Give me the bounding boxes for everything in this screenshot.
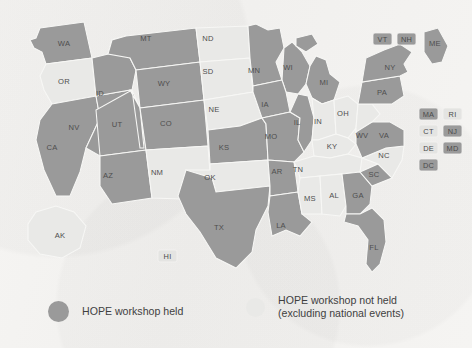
box-label-NJ: NJ: [448, 127, 458, 136]
label-TN: TN: [293, 165, 304, 174]
state-CO[interactable]: [140, 100, 208, 150]
box-label-RI: RI: [449, 110, 457, 119]
legend-label-not-held-line2: (excluding national events): [278, 307, 404, 319]
label-MO: MO: [265, 132, 278, 141]
label-PA: PA: [377, 88, 388, 97]
label-CA: CA: [47, 143, 59, 152]
label-OR: OR: [58, 77, 70, 86]
state-MN[interactable]: [248, 24, 284, 86]
legend-item-not-held[interactable]: HOPE workshop not held (excluding nation…: [246, 294, 404, 321]
legend-item-held[interactable]: HOPE workshop held: [48, 301, 183, 322]
map-legend: HOPE workshop held HOPE workshop not hel…: [0, 292, 472, 348]
label-ID: ID: [96, 89, 104, 98]
label-NY: NY: [385, 63, 396, 72]
box-DC[interactable]: DC: [419, 159, 438, 171]
map-svg: WA OR CA NV ID MT WY UT AZ CO NM ND SD N…: [0, 0, 472, 292]
box-label-VT: VT: [378, 35, 388, 44]
box-label-MA: MA: [423, 110, 435, 119]
box-label-MD: MD: [447, 144, 459, 153]
label-CO: CO: [160, 119, 172, 128]
label-OK: OK: [204, 173, 215, 182]
map-states: [28, 22, 448, 272]
label-WV: WV: [356, 131, 369, 140]
us-choropleth-map: WA OR CA NV ID MT WY UT AZ CO NM ND SD N…: [0, 0, 472, 292]
box-HI[interactable]: HI: [158, 250, 177, 262]
label-NM: NM: [151, 168, 163, 177]
label-TX: TX: [214, 223, 224, 232]
box-CT[interactable]: CT: [419, 125, 438, 137]
label-KS: KS: [219, 143, 230, 152]
label-OH: OH: [337, 109, 349, 118]
label-WY: WY: [158, 79, 171, 88]
label-AR: AR: [272, 167, 283, 176]
label-AZ: AZ: [103, 171, 113, 180]
box-label-NH: NH: [401, 35, 412, 44]
box-MA[interactable]: MA: [419, 108, 438, 120]
not-held-circle-swatch: [246, 298, 265, 317]
held-circle-swatch: [48, 301, 69, 322]
label-UT: UT: [112, 120, 123, 129]
box-NJ[interactable]: NJ: [443, 125, 462, 137]
label-MT: MT: [140, 34, 152, 43]
label-IL: IL: [294, 118, 301, 127]
box-label-DC: DC: [423, 161, 435, 170]
box-DE[interactable]: DE: [419, 142, 438, 154]
label-GA: GA: [352, 191, 364, 200]
label-NV: NV: [69, 123, 81, 132]
state-ND[interactable]: [196, 26, 250, 62]
label-WI: WI: [283, 63, 293, 72]
label-WA: WA: [58, 39, 71, 48]
label-SD: SD: [203, 67, 214, 76]
box-label-DE: DE: [423, 144, 434, 153]
box-MD[interactable]: MD: [443, 142, 462, 154]
label-VA: VA: [379, 131, 390, 140]
label-IN: IN: [314, 117, 322, 126]
label-SC: SC: [369, 170, 380, 179]
legend-label-not-held-line1: HOPE workshop not held: [278, 294, 397, 306]
label-ME: ME: [429, 39, 441, 48]
legend-label-not-held: HOPE workshop not held (excluding nation…: [278, 294, 404, 321]
label-MN: MN: [248, 66, 260, 75]
label-AK: AK: [55, 231, 66, 240]
label-MI: MI: [320, 78, 329, 87]
label-IA: IA: [261, 100, 269, 109]
box-label-CT: CT: [423, 127, 434, 136]
label-ND: ND: [202, 34, 214, 43]
label-AL: AL: [329, 191, 339, 200]
label-LA: LA: [276, 221, 286, 230]
legend-label-held: HOPE workshop held: [82, 305, 183, 318]
box-label-HI: HI: [164, 252, 172, 261]
label-MS: MS: [304, 194, 316, 203]
box-VT[interactable]: VT: [373, 33, 392, 45]
state-FL[interactable]: [344, 208, 386, 272]
label-FL: FL: [369, 243, 378, 252]
label-NE: NE: [209, 105, 220, 114]
label-NC: NC: [378, 151, 390, 160]
label-KY: KY: [327, 142, 338, 151]
box-NH[interactable]: NH: [397, 33, 416, 45]
box-RI[interactable]: RI: [443, 108, 462, 120]
